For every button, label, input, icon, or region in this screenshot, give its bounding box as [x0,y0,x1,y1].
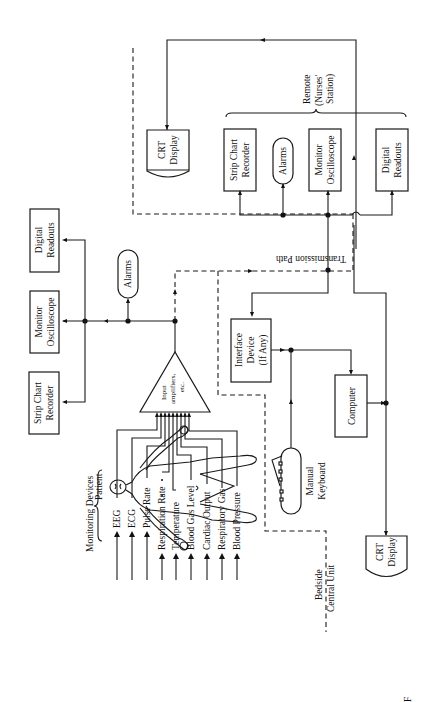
signal-label: Respiratory Gas [217,488,227,550]
remote-label: Station) [325,74,336,104]
amplifier-label: etc. [178,382,186,392]
signal-label: Cardiac Output [202,491,212,550]
box-label: Alarms [278,147,288,175]
box-label: Alarms [123,260,133,288]
transmission-path-label: Transmission Path [276,254,346,264]
remote-strip-chart-recorder: Strip Chart Recorder [224,129,256,191]
signal-label: ECG [127,509,137,528]
box-label: Digital [381,146,391,173]
local-digital-readouts: Digital Readouts [30,209,59,272]
box-label: Oscilloscope [326,135,336,184]
amplifier-label: Input [160,385,168,400]
box-label: Keyboard [317,462,327,500]
box-label: Digital [34,226,44,253]
box-label: CRT [157,141,167,159]
box-label: Interface [234,333,244,367]
signal-label: Blood Pressure [232,492,242,550]
box-label: Readouts [393,142,403,178]
remote-alarms: Alarms [273,138,293,184]
signal-blood-pressure: Blood Pressure [189,415,242,580]
interface-device: Interface Device (If Any) [231,319,271,382]
remote-label: (Nurses' [314,74,325,106]
manual-keyboard: Manual Keyboard [272,448,327,514]
box-label: Strip Chart [229,139,239,181]
patient-monitoring-diagram: Patient Monitoring Devices EEG ECG Pulse… [0,0,423,702]
signal-label: Pulse Rate [142,488,152,528]
input-amplifier: Input amplifiers, etc. [140,352,210,412]
signal-label: Respiration Rate [157,486,167,550]
box-label: Display [387,537,397,567]
box-label: Monitor [314,144,324,176]
box-label: Strip Chart [33,382,43,424]
local-alarms: Alarms [118,250,138,298]
local-monitor-oscilloscope: Monitor Oscilloscope [30,291,59,353]
local-strip-chart-recorder: Strip Chart Recorder [29,372,59,434]
box-label: Monitor [34,306,44,338]
signal-label: Temperature [171,502,181,550]
bedside-label: Bedside [314,569,324,600]
monitoring-devices-group: Monitoring Devices EEG ECG Pulse Rate Re… [85,412,242,580]
central-unit-label: Central Unit [326,564,336,612]
signal-label: EEG [112,509,122,528]
signal-label: Blood Gas Level [186,485,196,550]
patient-label: Patient [94,473,104,500]
remote-monitor-oscilloscope: Monitor Oscilloscope [309,129,341,191]
crt-display-top: CRT Display [147,130,189,177]
remote-digital-readouts: Digital Readouts [376,129,408,191]
box-label: Readouts [46,222,56,258]
box-label: Computer [347,386,357,425]
box-label: Recorder [45,385,55,421]
amplifier-label: amplifiers, [169,374,177,404]
box-label: Manual [305,466,315,495]
remote-label: Remote [302,74,312,104]
signal-blood-gas-level: Blood Gas Level [177,415,196,580]
crt-display-bottom: CRT Display [366,536,407,577]
remote-station-group: Remote (Nurses' Station) [226,74,406,117]
monitoring-devices-label: Monitoring Devices [85,475,95,552]
box-label: Oscilloscope [46,297,56,346]
caption-fragment: F [403,697,413,702]
box-label: Device [246,337,256,364]
box-label: Display [169,135,179,165]
box-label: (If Any) [258,335,269,366]
box-label: CRT [375,543,385,561]
box-label: Recorder [241,142,251,178]
computer: Computer [335,375,367,437]
